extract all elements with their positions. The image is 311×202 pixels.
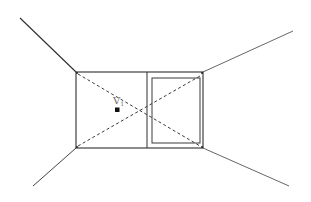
corner-dot-tl (76, 72, 78, 74)
corner-dot-tr (201, 72, 203, 74)
corner-line-top-right (203, 31, 293, 72)
corner-dot-br (201, 146, 203, 148)
perspective-diagram: V1 (0, 0, 311, 202)
corner-line-bottom-left (33, 148, 76, 186)
dashed-diagonal-2 (78, 76, 200, 146)
dashed-diagonal-1 (78, 74, 200, 146)
corner-line-top-left (20, 18, 76, 72)
window-frame (152, 78, 200, 143)
vanishing-point-label: V1 (112, 95, 124, 107)
corner-dot-bl (76, 146, 78, 148)
corner-line-bottom-right (203, 148, 289, 186)
vanishing-point-marker (115, 108, 120, 113)
